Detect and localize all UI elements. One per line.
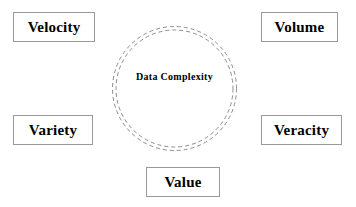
diagram-canvas: Data Complexity Velocity Volume Variety … [0, 0, 356, 207]
box-value[interactable]: Value [146, 167, 220, 197]
circle-outer-ring [113, 27, 237, 151]
circle-inner-ring [116, 30, 233, 147]
data-complexity-circle [111, 25, 238, 152]
box-veracity-label: Veracity [274, 123, 329, 138]
box-velocity[interactable]: Velocity [13, 12, 95, 42]
box-volume-label: Volume [275, 20, 325, 35]
box-volume[interactable]: Volume [261, 12, 338, 42]
box-veracity[interactable]: Veracity [261, 115, 342, 145]
box-variety[interactable]: Variety [13, 115, 93, 145]
box-velocity-label: Velocity [28, 20, 81, 35]
box-value-label: Value [164, 175, 201, 190]
box-variety-label: Variety [29, 123, 77, 138]
core-label: Data Complexity [111, 71, 238, 83]
